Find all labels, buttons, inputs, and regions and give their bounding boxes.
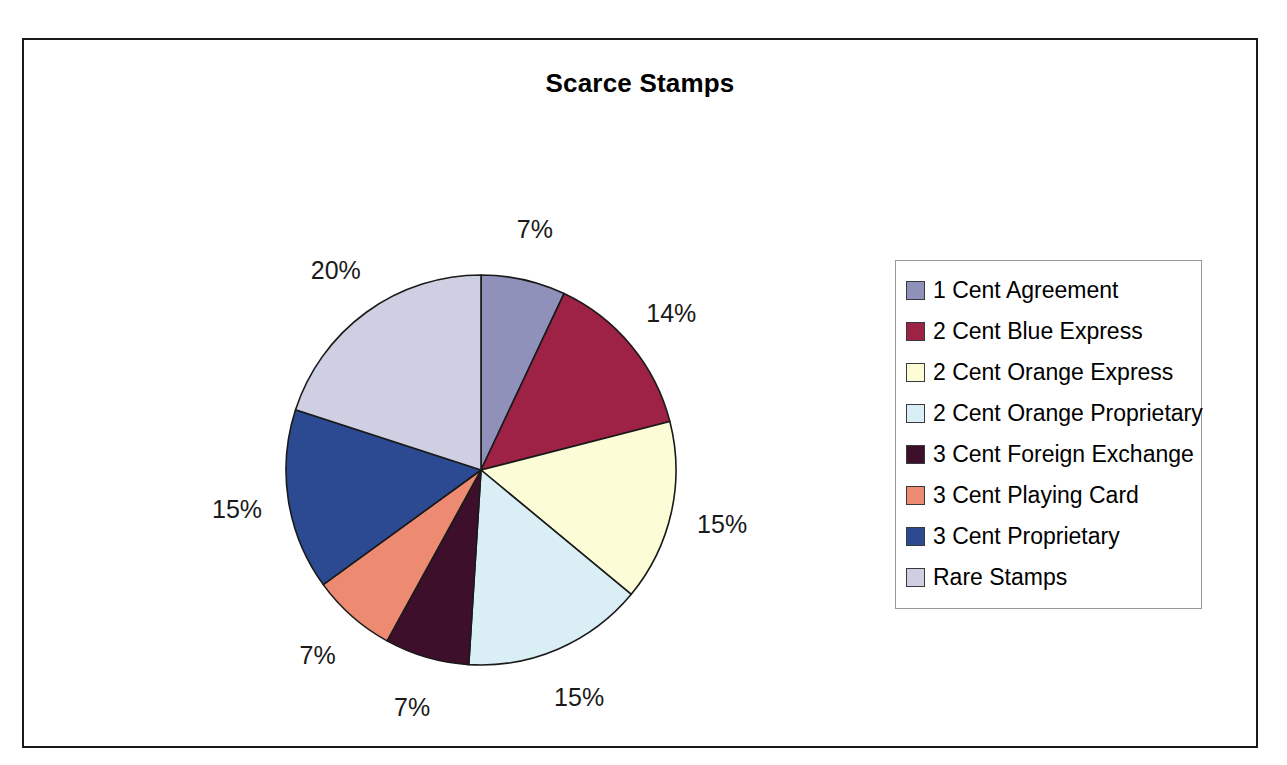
legend-item-label: 2 Cent Orange Proprietary — [933, 402, 1203, 425]
legend-swatch-icon — [906, 527, 925, 546]
legend-item[interactable]: 2 Cent Blue Express — [906, 311, 1201, 352]
legend-item[interactable]: 2 Cent Orange Express — [906, 352, 1201, 393]
pie-slice-label: 15% — [212, 494, 262, 523]
legend-item[interactable]: 2 Cent Orange Proprietary — [906, 393, 1201, 434]
legend-item-label: 2 Cent Blue Express — [933, 320, 1143, 343]
legend-swatch-icon — [906, 322, 925, 341]
legend-item-label: 1 Cent Agreement — [933, 279, 1118, 302]
legend-item-label: Rare Stamps — [933, 566, 1067, 589]
pie-slice-label: 14% — [646, 298, 696, 327]
legend-swatch-icon — [906, 281, 925, 300]
chart-frame: Scarce Stamps 7%14%15%15%7%7%15%20% 1 Ce… — [22, 38, 1258, 748]
legend-item-label: 3 Cent Proprietary — [933, 525, 1120, 548]
legend-item[interactable]: 3 Cent Playing Card — [906, 475, 1201, 516]
legend-item-label: 3 Cent Foreign Exchange — [933, 443, 1194, 466]
pie-slice-label: 20% — [311, 256, 361, 285]
pie-slice-label: 15% — [554, 682, 604, 711]
legend-item[interactable]: 1 Cent Agreement — [906, 270, 1201, 311]
legend-item[interactable]: 3 Cent Proprietary — [906, 516, 1201, 557]
legend-swatch-icon — [906, 363, 925, 382]
legend-swatch-icon — [906, 486, 925, 505]
pie-slice-label: 7% — [394, 693, 430, 722]
legend-item-label: 2 Cent Orange Express — [933, 361, 1173, 384]
pie-slice-label: 15% — [697, 509, 747, 538]
chart-title: Scarce Stamps — [24, 68, 1256, 99]
legend-swatch-icon — [906, 404, 925, 423]
legend-item[interactable]: 3 Cent Foreign Exchange — [906, 434, 1201, 475]
chart-legend: 1 Cent Agreement2 Cent Blue Express2 Cen… — [895, 260, 1202, 609]
legend-swatch-icon — [906, 568, 925, 587]
pie-slice-label: 7% — [300, 641, 336, 670]
pie-chart: 7%14%15%15%7%7%15%20% — [236, 220, 736, 720]
legend-swatch-icon — [906, 445, 925, 464]
pie-slice-label: 7% — [517, 214, 553, 243]
legend-item[interactable]: Rare Stamps — [906, 557, 1201, 598]
legend-item-label: 3 Cent Playing Card — [933, 484, 1139, 507]
